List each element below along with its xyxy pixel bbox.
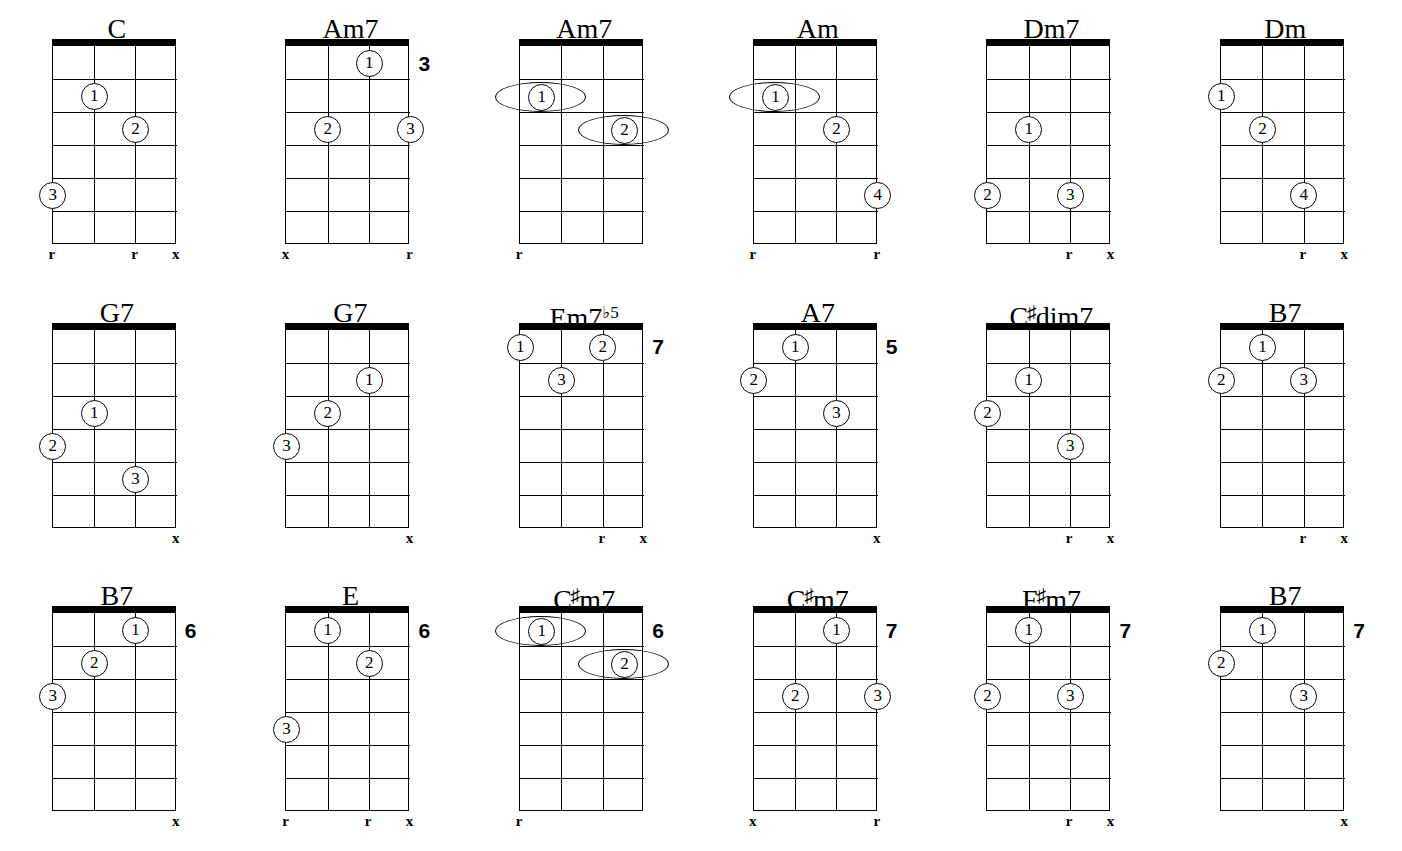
finger-dot: 2 bbox=[782, 683, 809, 710]
fret-line bbox=[53, 646, 177, 647]
root-marker: r bbox=[125, 246, 143, 262]
chord-diagram-body: Am124rr bbox=[733, 14, 903, 261]
fret-line bbox=[53, 211, 177, 212]
finger-dot: 2 bbox=[1208, 650, 1235, 677]
fret-line bbox=[754, 178, 878, 179]
finger-dot: 3 bbox=[864, 683, 891, 710]
fretboard: 1236x bbox=[32, 613, 202, 828]
fret-line bbox=[1221, 712, 1345, 713]
fret-grid bbox=[285, 330, 409, 528]
fretboard: 123x bbox=[265, 330, 435, 545]
finger-dot: 1 bbox=[356, 50, 383, 77]
mute-marker: x bbox=[276, 246, 294, 262]
barre-indicator: 2 bbox=[578, 649, 669, 679]
finger-dot: 1 bbox=[1249, 334, 1276, 361]
fret-grid bbox=[519, 330, 643, 528]
mute-marker: x bbox=[1335, 246, 1353, 262]
chord-diagram: Am124rr bbox=[701, 0, 935, 284]
fret-line bbox=[1221, 646, 1345, 647]
chord-diagram-body: C♯m7126r bbox=[499, 581, 669, 828]
finger-dot: 2 bbox=[974, 683, 1001, 710]
fret-line bbox=[520, 646, 644, 647]
fret-line bbox=[1221, 363, 1345, 364]
start-fret-number: 7 bbox=[652, 336, 664, 357]
finger-dot: 3 bbox=[39, 182, 66, 209]
finger-number: 1 bbox=[762, 84, 789, 111]
finger-dot: 3 bbox=[1057, 433, 1084, 460]
finger-dot: 2 bbox=[740, 367, 767, 394]
barre-indicator: 2 bbox=[578, 115, 669, 145]
fret-line bbox=[754, 646, 878, 647]
chord-diagram: B71237x bbox=[1168, 567, 1402, 851]
fret-line bbox=[987, 745, 1111, 746]
start-fret-number: 6 bbox=[652, 620, 664, 641]
finger-number: 1 bbox=[528, 618, 555, 645]
fret-line bbox=[53, 178, 177, 179]
chord-diagram-body: A71235x bbox=[733, 298, 903, 545]
fret-line bbox=[754, 145, 878, 146]
fret-grid bbox=[52, 613, 176, 811]
finger-dot: 2 bbox=[823, 116, 850, 143]
finger-dot: 1 bbox=[507, 334, 534, 361]
fret-line bbox=[286, 745, 410, 746]
finger-dot: 1 bbox=[314, 617, 341, 644]
fret-line bbox=[520, 495, 644, 496]
fret-line bbox=[53, 396, 177, 397]
chord-diagram: G7123x bbox=[0, 284, 234, 568]
fret-line bbox=[53, 745, 177, 746]
fret-line bbox=[987, 679, 1111, 680]
fretboard: 123x bbox=[32, 330, 202, 545]
fret-grid bbox=[753, 613, 877, 811]
fretboard: 1237rx bbox=[499, 330, 669, 545]
start-fret-number: 5 bbox=[886, 336, 898, 357]
root-marker: r bbox=[1060, 530, 1078, 546]
fret-line bbox=[53, 462, 177, 463]
finger-dot: 3 bbox=[1057, 182, 1084, 209]
chord-diagram-body: C123rrx bbox=[32, 14, 202, 261]
fret-line bbox=[53, 679, 177, 680]
fret-line bbox=[754, 112, 878, 113]
fret-line bbox=[987, 79, 1111, 80]
fret-line bbox=[286, 178, 410, 179]
fret-grid bbox=[52, 330, 176, 528]
fret-line bbox=[754, 429, 878, 430]
start-fret-number: 7 bbox=[886, 620, 898, 641]
chord-diagram-grid: C123rrxAm71233xrAm712rAm124rrDm7123rxDm1… bbox=[0, 0, 1402, 851]
fret-line bbox=[987, 712, 1111, 713]
chord-diagram: Am712r bbox=[467, 0, 701, 284]
fretboard: 123rx bbox=[966, 46, 1136, 261]
finger-dot: 1 bbox=[823, 617, 850, 644]
fret-line bbox=[286, 712, 410, 713]
fret-line bbox=[987, 646, 1111, 647]
fret-line bbox=[754, 745, 878, 746]
fret-line bbox=[987, 112, 1111, 113]
fret-grid bbox=[986, 330, 1110, 528]
fretboard: 1235x bbox=[733, 330, 903, 545]
fret-grid bbox=[986, 46, 1110, 244]
fret-line bbox=[520, 178, 644, 179]
chord-diagram: C123rrx bbox=[0, 0, 234, 284]
finger-dot: 3 bbox=[397, 116, 424, 143]
chord-diagram: E1236rrx bbox=[234, 567, 468, 851]
fret-line bbox=[53, 778, 177, 779]
barre-indicator: 1 bbox=[495, 616, 586, 646]
finger-dot: 2 bbox=[1208, 367, 1235, 394]
root-marker: r bbox=[1060, 246, 1078, 262]
fretboard: 12r bbox=[499, 46, 669, 261]
fret-line bbox=[53, 145, 177, 146]
barre-indicator: 1 bbox=[729, 82, 820, 112]
fretboard: 1237x bbox=[1200, 613, 1370, 828]
chord-diagram-body: C♯m71237xr bbox=[733, 581, 903, 828]
fret-line bbox=[754, 79, 878, 80]
mute-marker: x bbox=[634, 530, 652, 546]
finger-dot: 3 bbox=[1290, 367, 1317, 394]
finger-number: 2 bbox=[611, 117, 638, 144]
fretboard: 1233xr bbox=[265, 46, 435, 261]
fret-line bbox=[53, 363, 177, 364]
fret-line bbox=[987, 145, 1111, 146]
fret-grid bbox=[519, 46, 643, 244]
chord-diagram: G7123x bbox=[234, 284, 468, 568]
fret-grid bbox=[285, 46, 409, 244]
chord-diagram: C♯m7126r bbox=[467, 567, 701, 851]
chord-diagram-body: G7123x bbox=[265, 298, 435, 545]
